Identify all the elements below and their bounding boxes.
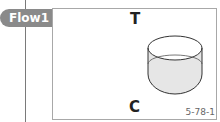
top-label: T xyxy=(130,10,140,28)
cylinder-illustration xyxy=(146,34,204,96)
bottom-label: C xyxy=(129,98,140,116)
figure-number: 5-78-1 xyxy=(186,107,215,117)
flow-tag: Flow1 xyxy=(0,9,52,27)
